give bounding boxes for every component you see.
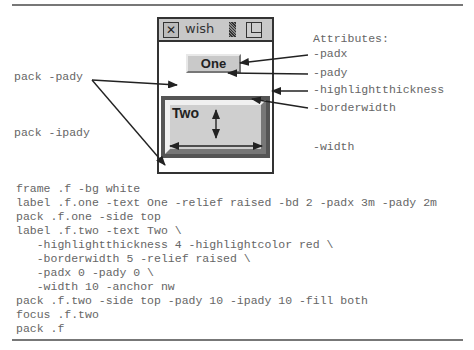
bottom-rule [12,339,463,341]
code-line: frame .f -bg white [16,182,140,196]
annotation-highlightthickness: -highlightthickness [313,83,444,97]
code-line: pack .f [16,322,64,336]
attributes-heading: Attributes: [313,32,389,46]
code-line: -width 10 -anchor nw [16,280,175,294]
code-line: pack .f.one -side top [16,210,161,224]
code-line: pack .f.two -side top -pady 10 -ipady 10… [16,294,368,308]
annotation-padx: -padx [313,47,348,61]
code-line: focus .f.two [16,308,99,322]
annotation-borderwidth: -borderwidth [313,101,396,115]
annotation-pack-ipady: pack -ipady [14,126,90,140]
code-line: label .f.one -text One -relief raised -b… [16,196,437,210]
annotation-pady: -pady [313,66,348,80]
code-line: label .f.two -text Two \ [16,224,182,238]
code-line: -padx 0 -pady 0 \ [16,266,154,280]
code-line: -highlightthickness 4 -highlightcolor re… [16,238,333,252]
annotation-width: -width [313,140,354,154]
annotation-pack-pady: pack -pady [14,70,83,84]
code-line: -borderwidth 5 -relief raised \ [16,252,251,266]
